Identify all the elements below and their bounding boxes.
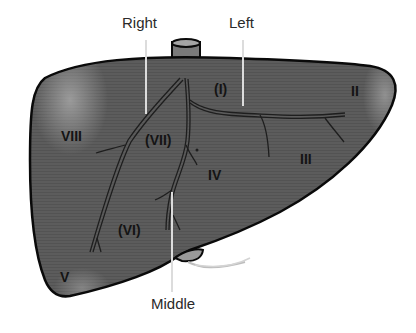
small-vessel-dot [196, 149, 199, 152]
callout-label-middle: Middle [151, 295, 195, 312]
segment-label-VIII: VIII [61, 128, 82, 144]
gallbladder-tip [175, 249, 250, 267]
segment-label-VI: (VI) [118, 222, 141, 238]
callout-label-right: Right [122, 14, 158, 31]
segment-label-VII: (VII) [145, 132, 171, 148]
callout-label-left: Left [229, 14, 255, 31]
segment-label-V: V [60, 269, 70, 285]
liver-svg: Right Left Middle (I) II III IV V (VI) (… [0, 0, 416, 333]
segment-label-III: III [300, 151, 312, 167]
segment-label-IV: IV [208, 167, 222, 183]
liver-diagram: Right Left Middle (I) II III IV V (VI) (… [0, 0, 416, 333]
segment-label-II: II [351, 83, 359, 99]
segment-label-I: (I) [214, 81, 227, 97]
